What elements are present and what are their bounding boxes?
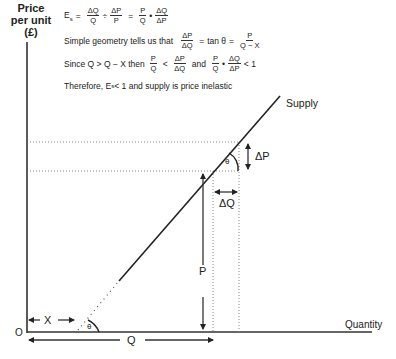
p-label: P bbox=[199, 265, 206, 277]
quantity-axis-label: Quantity bbox=[345, 319, 382, 330]
delta-p-label: ΔP bbox=[255, 150, 270, 162]
supply-label: Supply bbox=[286, 97, 318, 109]
angle-arc-upper bbox=[229, 153, 238, 171]
theta-label-origin: θ bbox=[87, 322, 91, 331]
x-label: X bbox=[44, 314, 51, 326]
theta-label-upper: θ bbox=[225, 157, 229, 166]
q-label: Q bbox=[127, 334, 136, 346]
supply-diagram bbox=[0, 0, 396, 359]
supply-curve bbox=[119, 96, 280, 281]
supply-curve-extension bbox=[78, 281, 119, 330]
origin-label: O bbox=[15, 327, 23, 338]
delta-q-label: ΔQ bbox=[219, 197, 235, 209]
